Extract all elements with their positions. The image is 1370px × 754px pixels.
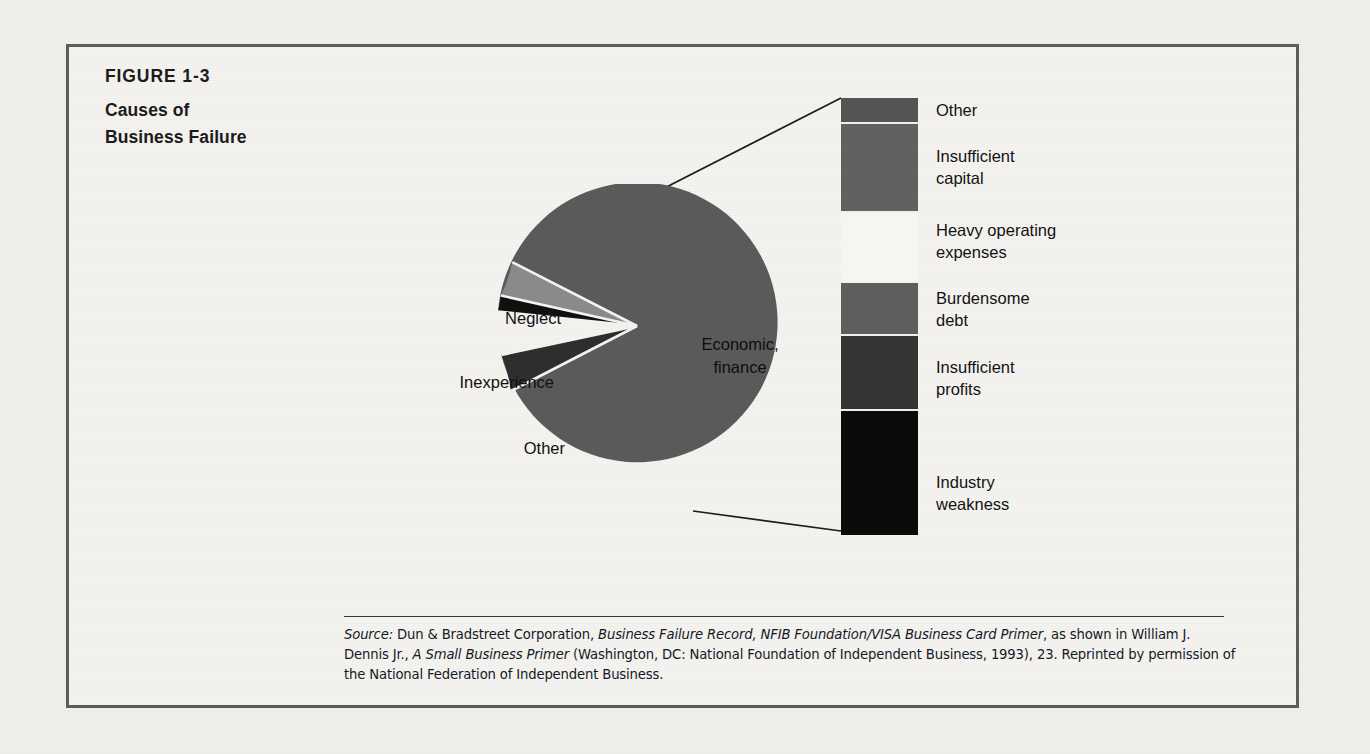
figure-frame: FIGURE 1-3 Causes of Business Failure xyxy=(66,44,1299,708)
bar-label-insufficient-capital: Insufficient capital xyxy=(936,146,1015,190)
bar-segment-insufficient-profits[interactable] xyxy=(841,336,918,411)
source-text-1: Dun & Bradstreet Corporation, xyxy=(393,627,598,642)
pie-label-inexperience: Inexperience xyxy=(329,373,554,392)
bar-label-industry-weakness: Industry weakness xyxy=(936,472,1009,516)
source-italic-1: Business Failure Record, NFIB Foundation… xyxy=(598,627,1043,642)
figure-title-line-2: Business Failure xyxy=(105,124,395,151)
source-label: Source: xyxy=(344,627,393,642)
figure-title-line-1: Causes of xyxy=(105,97,395,124)
bar-segment-industry-weakness[interactable] xyxy=(841,411,918,535)
source-note: Source: Dun & Bradstreet Corporation, Bu… xyxy=(344,625,1236,685)
page-canvas: FIGURE 1-3 Causes of Business Failure xyxy=(0,0,1370,754)
bar-segment-burdensome-debt[interactable] xyxy=(841,283,918,336)
source-italic-2: A Small Business Primer xyxy=(413,647,569,662)
pie-label-other: Other xyxy=(369,439,565,458)
source-divider-rule xyxy=(344,616,1224,617)
exploded-stacked-bar xyxy=(841,98,918,535)
bar-label-heavy-operating-expenses: Heavy operating expenses xyxy=(936,220,1056,264)
bar-segment-other[interactable] xyxy=(841,98,918,124)
bar-segment-insufficient-capital[interactable] xyxy=(841,124,918,213)
pie-label-neglect: Neglect xyxy=(369,309,561,328)
figure-caption-block: FIGURE 1-3 Causes of Business Failure xyxy=(105,67,395,151)
bar-label-other: Other xyxy=(936,100,977,122)
bar-label-insufficient-profits: Insufficient profits xyxy=(936,357,1015,401)
figure-number: FIGURE 1-3 xyxy=(105,67,395,85)
bar-label-burdensome-debt: Burdensome debt xyxy=(936,288,1030,332)
bar-segment-heavy-operating-expenses[interactable] xyxy=(841,213,918,283)
